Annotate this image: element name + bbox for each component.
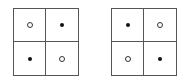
left-grid-cell-bottom-left xyxy=(14,42,46,75)
right-grid-cell-bottom-right xyxy=(144,42,176,75)
hollow-circle-icon xyxy=(157,22,163,28)
filled-dot-icon xyxy=(60,23,64,27)
right-grid xyxy=(111,8,177,76)
left-grid-cell-bottom-right xyxy=(46,42,78,75)
right-grid-cell-top-left xyxy=(112,9,144,42)
filled-dot-icon xyxy=(28,57,32,61)
left-grid-cell-top-left xyxy=(14,9,46,42)
right-grid-cell-top-right xyxy=(144,9,176,42)
left-grid xyxy=(13,8,79,76)
hollow-circle-icon xyxy=(125,56,131,62)
hollow-circle-icon xyxy=(59,56,65,62)
hollow-circle-icon xyxy=(27,22,33,28)
filled-dot-icon xyxy=(126,23,130,27)
left-grid-cell-top-right xyxy=(46,9,78,42)
right-grid-cell-bottom-left xyxy=(112,42,144,75)
filled-dot-icon xyxy=(158,57,162,61)
